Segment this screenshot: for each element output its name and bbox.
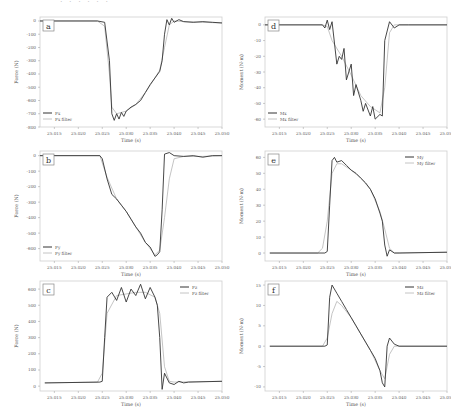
x-tick-label: 25.030 <box>344 131 359 136</box>
y-tick-label: 60 <box>256 155 262 160</box>
x-tick-label: 25.015 <box>272 395 287 400</box>
y-tick-label: 0 <box>33 384 36 389</box>
x-tick-label: 25.035 <box>143 395 158 400</box>
y-tick-label: 0 <box>33 18 36 23</box>
legend-entry: Mz <box>417 285 424 290</box>
y-tick-label: -500 <box>27 231 37 236</box>
y-tick-label: -100 <box>27 32 37 37</box>
x-axis-label: Time (s) <box>121 138 141 143</box>
chart-f: 151050-5-1025.01525.02025.02525.03025.03… <box>225 276 450 406</box>
y-tick-label: 0 <box>258 251 261 256</box>
x-tick-label: 25.030 <box>344 265 359 270</box>
panel-c: 010020030040050060025.01525.02025.02525.… <box>0 276 225 406</box>
y-tick-label: -200 <box>27 184 37 189</box>
cropped-caption-text: · · · · · · <box>60 0 390 6</box>
x-tick-label: 25.015 <box>272 131 287 136</box>
chart-b: 0-100-200-300-400-500-60025.01525.02025.… <box>0 146 225 276</box>
x-tick-label: 25.030 <box>344 395 359 400</box>
x-tick-label: 25.040 <box>392 395 407 400</box>
legend-entry: Mz filter <box>417 291 435 296</box>
y-tick-label: 20 <box>256 219 262 224</box>
x-tick-label: 25.045 <box>416 395 431 400</box>
y-tick-label: 15 <box>256 283 262 288</box>
y-tick-label: -10 <box>254 384 261 389</box>
panel-label: d <box>271 22 276 31</box>
legend-entry: Fx <box>55 111 61 116</box>
legend-entry: Fx filter <box>55 117 72 122</box>
y-tick-label: 30 <box>256 203 262 208</box>
y-tick-label: 5 <box>258 323 261 328</box>
x-tick-label: 25.050 <box>440 265 451 270</box>
y-tick-label: -40 <box>254 85 261 90</box>
y-tick-label: -800 <box>27 125 37 130</box>
y-axis-label: Force (N) <box>14 194 19 217</box>
legend-entry: Fz <box>192 285 198 290</box>
panel-label: b <box>46 156 51 165</box>
y-tick-label: 40 <box>256 187 262 192</box>
x-tick-label: 25.025 <box>320 395 335 400</box>
y-tick-label: -20 <box>254 54 261 59</box>
x-tick-label: 25.045 <box>416 265 431 270</box>
y-tick-label: -200 <box>27 45 37 50</box>
y-axis-label: Moment (N·m) <box>239 318 244 354</box>
legend-entry: Fz filter <box>192 291 209 296</box>
plot-frame <box>40 151 222 261</box>
legend-entry: My <box>417 155 424 160</box>
x-tick-label: 25.030 <box>119 131 134 136</box>
x-tick-label: 25.030 <box>119 265 134 270</box>
panel-d: 0-10-20-30-40-50-6025.01525.02025.02525.… <box>225 12 450 142</box>
x-tick-label: 25.050 <box>440 395 451 400</box>
x-tick-label: 25.020 <box>71 131 86 136</box>
x-tick-label: 25.050 <box>440 131 451 136</box>
y-axis-label: Moment (N·m) <box>239 188 244 224</box>
y-axis-label: Moment (N·m) <box>239 54 244 90</box>
y-tick-label: 300 <box>28 335 36 340</box>
x-tick-label: 25.045 <box>191 131 206 136</box>
x-tick-label: 25.020 <box>296 131 311 136</box>
x-tick-label: 25.020 <box>296 395 311 400</box>
x-tick-label: 25.015 <box>47 131 62 136</box>
x-tick-label: 25.020 <box>296 265 311 270</box>
x-tick-label: 25.040 <box>392 265 407 270</box>
y-tick-label: 10 <box>256 235 262 240</box>
x-tick-label: 25.020 <box>71 395 86 400</box>
x-tick-label: 25.025 <box>95 395 110 400</box>
x-tick-label: 25.015 <box>272 265 287 270</box>
y-tick-label: 100 <box>28 367 36 372</box>
y-tick-label: 400 <box>28 319 36 324</box>
y-tick-label: 200 <box>28 351 36 356</box>
x-axis-label: Time (s) <box>121 402 141 407</box>
x-tick-label: 25.035 <box>368 131 383 136</box>
y-tick-label: -700 <box>27 111 37 116</box>
x-axis-label: Time (s) <box>346 402 366 407</box>
y-tick-label: -60 <box>254 117 261 122</box>
y-tick-label: -300 <box>27 200 37 205</box>
y-tick-label: -30 <box>254 70 261 75</box>
panel-a: 0-100-200-300-400-500-600-700-80025.0152… <box>0 12 225 142</box>
y-axis-label: Force (N) <box>14 60 19 83</box>
plot-frame <box>265 17 447 127</box>
y-tick-label: 600 <box>28 287 36 292</box>
x-axis-label: Time (s) <box>346 138 366 143</box>
x-tick-label: 25.035 <box>143 131 158 136</box>
panel-label: e <box>271 156 276 165</box>
y-tick-label: 0 <box>33 153 36 158</box>
x-tick-label: 25.015 <box>47 265 62 270</box>
panel-label: a <box>46 22 51 31</box>
x-tick-label: 25.025 <box>95 265 110 270</box>
legend-entry: Mx <box>280 111 287 116</box>
y-tick-label: -300 <box>27 58 37 63</box>
x-tick-label: 25.045 <box>191 265 206 270</box>
y-tick-label: 50 <box>256 171 262 176</box>
x-tick-label: 25.040 <box>392 131 407 136</box>
x-tick-label: 25.035 <box>368 395 383 400</box>
x-tick-label: 25.025 <box>320 265 335 270</box>
x-tick-label: 25.025 <box>320 131 335 136</box>
x-tick-label: 25.040 <box>167 395 182 400</box>
y-tick-label: 0 <box>258 22 261 27</box>
chart-c: 010020030040050060025.01525.02025.02525.… <box>0 276 225 406</box>
chart-d: 0-10-20-30-40-50-6025.01525.02025.02525.… <box>225 12 450 142</box>
y-tick-label: -600 <box>27 246 37 251</box>
x-tick-label: 25.025 <box>95 131 110 136</box>
y-tick-label: -50 <box>254 101 261 106</box>
